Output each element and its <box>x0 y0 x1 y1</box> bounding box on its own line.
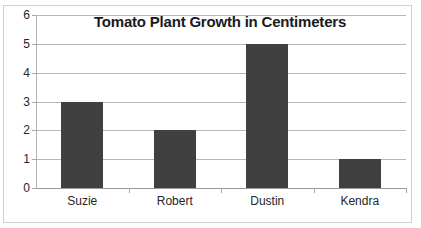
y-axis-label: 0 <box>8 181 30 195</box>
x-axis-tick <box>314 188 315 193</box>
x-axis-label-dustin: Dustin <box>221 194 314 208</box>
x-axis-tick <box>129 188 130 193</box>
y-axis-tick <box>32 159 37 160</box>
y-axis-label: 6 <box>8 8 30 22</box>
y-axis-label: 2 <box>8 123 30 137</box>
y-axis-label: 3 <box>8 95 30 109</box>
gridline <box>36 15 406 16</box>
x-axis-label-suzie: Suzie <box>36 194 129 208</box>
gridline <box>36 44 406 45</box>
bar-dustin[interactable] <box>246 44 288 188</box>
y-axis-tick <box>32 15 37 16</box>
x-axis-label-kendra: Kendra <box>314 194 407 208</box>
x-axis-label-robert: Robert <box>129 194 222 208</box>
chart-screenshot: Tomato Plant Growth in Centimeters 01234… <box>0 0 421 228</box>
y-axis-tick <box>32 102 37 103</box>
y-axis-label: 1 <box>8 152 30 166</box>
x-axis-tick <box>221 188 222 193</box>
y-axis-tick <box>32 73 37 74</box>
cropped-text-sliver <box>0 0 421 4</box>
bar-kendra[interactable] <box>339 159 381 188</box>
y-axis-label: 5 <box>8 37 30 51</box>
y-axis-labels: 0123456 <box>4 0 30 228</box>
y-axis-tick <box>32 44 37 45</box>
gridline <box>36 73 406 74</box>
bar-robert[interactable] <box>154 130 196 188</box>
x-axis-tick <box>406 188 407 193</box>
y-axis-label: 4 <box>8 66 30 80</box>
y-axis-tick <box>32 130 37 131</box>
plot-area <box>36 15 406 188</box>
bar-suzie[interactable] <box>61 102 103 189</box>
y-axis-tick <box>32 188 37 189</box>
